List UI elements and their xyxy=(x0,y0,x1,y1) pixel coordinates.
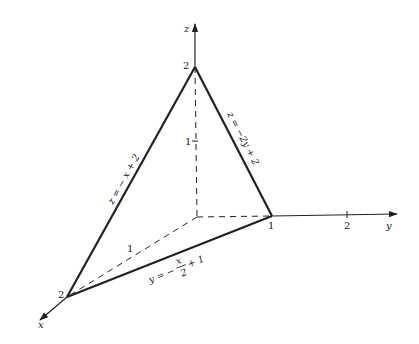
xy-eq-frac-num: x xyxy=(174,254,184,266)
x-axis-label: x xyxy=(38,319,44,330)
z-tick-1-label: 1 xyxy=(185,136,191,147)
y-intercept-label: 1 xyxy=(268,220,274,231)
z-axis-hidden xyxy=(195,67,197,217)
x-tick-1-label: 1 xyxy=(127,243,133,254)
xy-trace-edge xyxy=(67,216,272,297)
z-axis-label: z xyxy=(183,23,190,34)
y-axis-label: y xyxy=(385,220,392,231)
plane-diagram: z y x 2 1 1 2 1 2 z = − x + 2 z = −2y + … xyxy=(0,0,419,344)
xz-trace-equation: z = − x + 2 xyxy=(105,152,142,207)
z-intercept-label: 2 xyxy=(183,60,189,71)
plane-triangle xyxy=(67,67,272,297)
x-axis xyxy=(40,297,67,320)
y-axis-hidden xyxy=(197,216,272,217)
y-axis xyxy=(272,211,397,218)
yz-trace-edge xyxy=(195,67,272,216)
hidden-axes xyxy=(67,67,272,297)
y-tick-2-label: 2 xyxy=(344,220,350,231)
xy-eq-frac-den: 2 xyxy=(178,266,189,279)
x-intercept-label: 2 xyxy=(58,289,64,300)
xy-eq-rhs: + 1 xyxy=(186,253,206,269)
xy-eq-lhs: y = − xyxy=(146,265,176,286)
